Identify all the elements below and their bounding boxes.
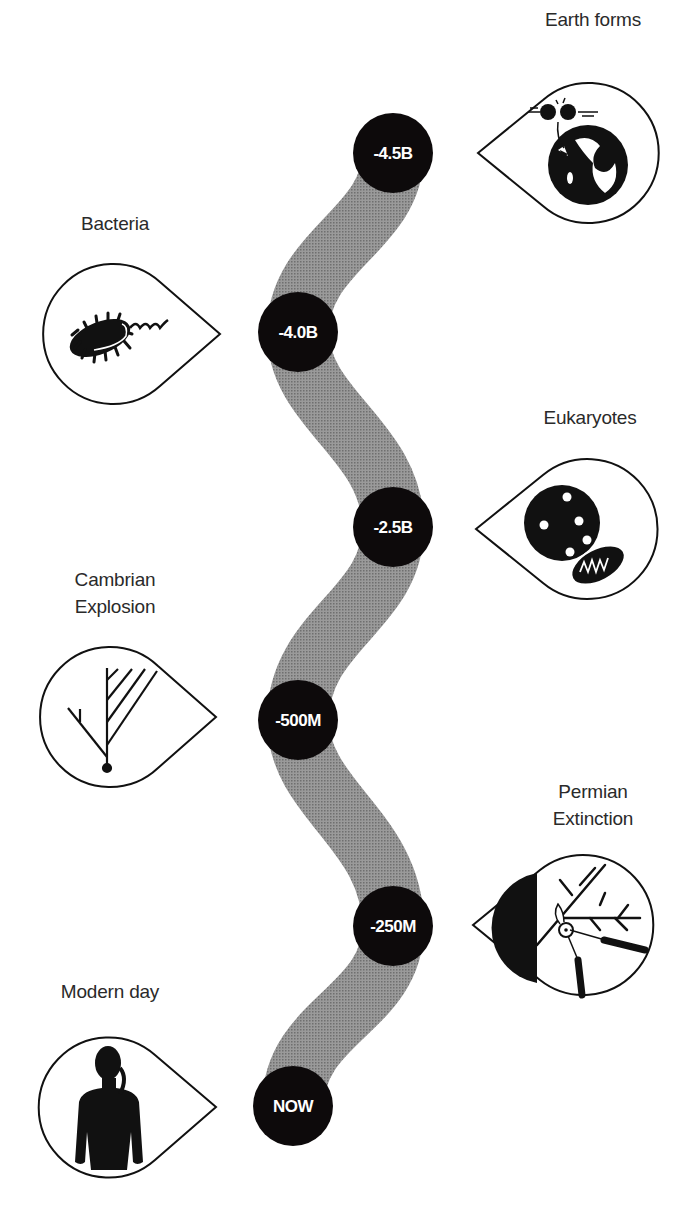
- timeline-node: -2.5B: [353, 487, 433, 567]
- node-label: NOW: [273, 1097, 315, 1116]
- node-label: -250M: [370, 917, 416, 936]
- event-title: Permian Extinction: [518, 778, 668, 832]
- event-title: Earth forms: [518, 6, 668, 33]
- timeline-node: -500M: [258, 680, 338, 760]
- event-title-line: Cambrian: [40, 566, 190, 593]
- timeline-node: NOW: [253, 1066, 333, 1146]
- event-title: Modern day: [30, 978, 190, 1005]
- event-bubble-earth-forms: [478, 83, 659, 223]
- timeline-diagram: -4.5B -4.0B -2.5B -500M -250M NOW: [0, 0, 689, 1222]
- event-title: Eukaryotes: [515, 404, 665, 431]
- event-title-line: Permian: [518, 778, 668, 805]
- timeline-node: -250M: [353, 886, 433, 966]
- event-bubble-bacteria: [43, 264, 220, 404]
- event-title: Bacteria: [50, 210, 180, 237]
- event-bubble-cambrian-explosion: [40, 647, 216, 787]
- node-label: -4.5B: [373, 144, 412, 163]
- event-title: Cambrian Explosion: [40, 566, 190, 620]
- timeline-node: -4.0B: [258, 292, 338, 372]
- event-title-line: Explosion: [40, 593, 190, 620]
- event-title-line: Extinction: [518, 805, 668, 832]
- node-label: -4.0B: [278, 323, 317, 342]
- node-label: -2.5B: [373, 518, 412, 537]
- timeline-node: -4.5B: [353, 113, 433, 193]
- node-label: -500M: [275, 711, 321, 730]
- event-bubble-modern-day: [39, 1038, 216, 1178]
- event-bubble-permian-extinction: [473, 855, 653, 995]
- event-bubble-eukaryotes: [476, 459, 658, 599]
